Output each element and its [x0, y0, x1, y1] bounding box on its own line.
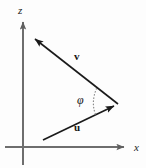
diagram-canvas — [0, 0, 146, 168]
phi-angle-arc — [93, 89, 96, 116]
z-axis-label: z — [18, 5, 22, 16]
x-axis-label: x — [134, 142, 139, 153]
vector-u-label: u — [74, 122, 80, 133]
vector-v-label: v — [74, 51, 80, 62]
vector-angle-diagram: z x v u φ — [0, 0, 146, 168]
phi-angle-label: φ — [77, 94, 84, 106]
